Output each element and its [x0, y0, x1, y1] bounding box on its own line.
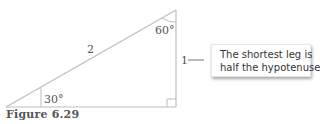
callout-line-2: half the hypotenuse. — [220, 62, 304, 75]
angle-arc-60 — [162, 18, 176, 22]
right-angle-marker — [167, 99, 176, 107]
figure-caption: Figure 6.29 — [6, 108, 79, 121]
top-angle-label: 60° — [155, 25, 175, 36]
short-leg-label: 1 — [181, 55, 188, 66]
callout-line-1: The shortest leg is — [220, 49, 304, 62]
left-angle-label: 30° — [44, 94, 64, 105]
callout-box: The shortest leg is half the hypotenuse. — [211, 44, 311, 77]
hypotenuse-line — [6, 10, 176, 107]
triangle-diagram: 2 60° 30° 1 The shortest leg is half the… — [0, 0, 320, 124]
hypotenuse-label: 2 — [87, 44, 94, 55]
